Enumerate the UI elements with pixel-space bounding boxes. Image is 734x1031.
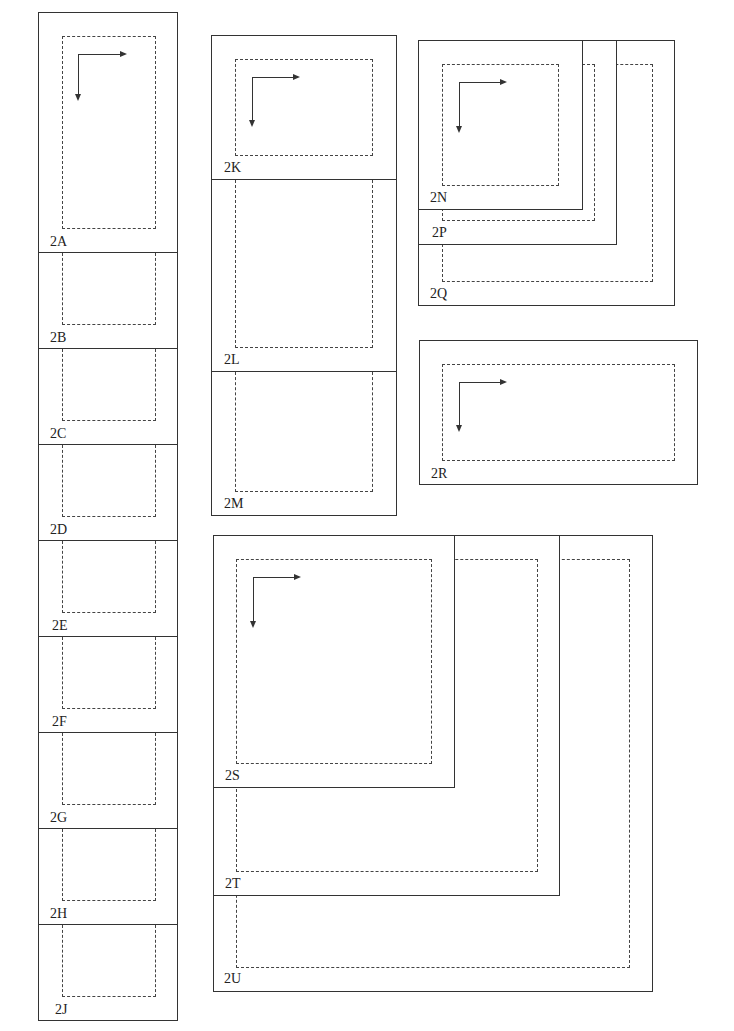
frame-label-2s: 2S: [225, 769, 240, 783]
arrow-vertical-line: [252, 77, 253, 120]
arrow-down-head-icon: [456, 425, 462, 432]
frame-label-2u: 2U: [224, 972, 241, 986]
arrow-right-head-icon: [293, 74, 300, 80]
arrow-vertical-line: [78, 54, 79, 94]
frame-label-2q: 2Q: [430, 287, 447, 301]
arrow-horizontal-line: [252, 77, 293, 78]
content-area-2k: [235, 59, 373, 156]
frame-label-2r: 2R: [431, 467, 447, 481]
arrow-down-head-icon: [456, 126, 462, 133]
arrow-down-head-icon: [75, 94, 81, 101]
frame-label-2k: 2K: [224, 161, 241, 175]
frame-label-2b: 2B: [50, 331, 66, 345]
frame-label-2d: 2D: [50, 523, 67, 537]
frame-label-2j: 2J: [55, 1003, 67, 1017]
frame-label-2g: 2G: [50, 811, 67, 825]
content-area-2h: [62, 829, 156, 901]
arrow-horizontal-line: [78, 54, 120, 55]
arrow-horizontal-line: [459, 382, 500, 383]
frame-label-2m: 2M: [224, 497, 243, 511]
content-area-2b: [62, 253, 156, 325]
frame-label-2t: 2T: [225, 877, 241, 891]
frame-label-2n: 2N: [430, 191, 447, 205]
arrow-down-head-icon: [250, 621, 256, 628]
arrow-right-head-icon: [120, 51, 127, 57]
content-area-2a: [62, 36, 156, 229]
content-area-2g: [62, 733, 156, 805]
content-area-2d: [62, 445, 156, 517]
arrow-right-head-icon: [500, 79, 507, 85]
frame-label-2c: 2C: [50, 427, 66, 441]
content-area-2l: [235, 180, 373, 348]
frame-label-2a: 2A: [50, 235, 67, 249]
arrow-down-head-icon: [249, 120, 255, 127]
arrow-horizontal-line: [459, 82, 500, 83]
content-area-2j: [62, 925, 156, 997]
content-area-2e: [62, 541, 156, 613]
content-area-2c: [62, 349, 156, 421]
arrow-horizontal-line: [253, 577, 294, 578]
content-area-2r: [442, 364, 675, 461]
frame-label-2l: 2L: [224, 353, 240, 367]
frame-label-2f: 2F: [52, 715, 67, 729]
content-area-2m: [235, 372, 373, 492]
frame-label-2h: 2H: [50, 907, 67, 921]
content-area-2s: [236, 559, 432, 764]
content-area-2f: [62, 637, 156, 709]
arrow-vertical-line: [253, 577, 254, 621]
frame-label-2p: 2P: [432, 226, 447, 240]
arrow-vertical-line: [459, 382, 460, 425]
arrow-right-head-icon: [500, 379, 507, 385]
arrow-right-head-icon: [294, 574, 301, 580]
arrow-vertical-line: [459, 82, 460, 126]
frame-label-2e: 2E: [52, 619, 68, 633]
